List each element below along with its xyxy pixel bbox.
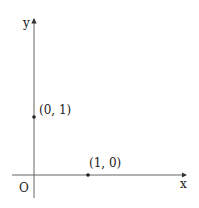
coordinate-plane: y x O (0, 1) (1, 0)	[0, 0, 199, 208]
point-0-1-label: (0, 1)	[39, 103, 71, 117]
point-1-0-label: (1, 0)	[89, 156, 121, 170]
origin-label: O	[19, 181, 29, 195]
point-1-0	[86, 173, 90, 177]
x-axis-label: x	[180, 177, 187, 191]
point-0-1	[32, 115, 36, 119]
y-axis-label: y	[22, 16, 30, 30]
